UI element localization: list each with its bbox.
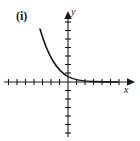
- graph-canvas: [0, 0, 140, 141]
- exponential-decay-curve: [40, 29, 118, 82]
- figure-panel: (i): [0, 0, 140, 141]
- x-axis-label: x: [124, 85, 128, 95]
- y-axis-label: y: [71, 7, 75, 17]
